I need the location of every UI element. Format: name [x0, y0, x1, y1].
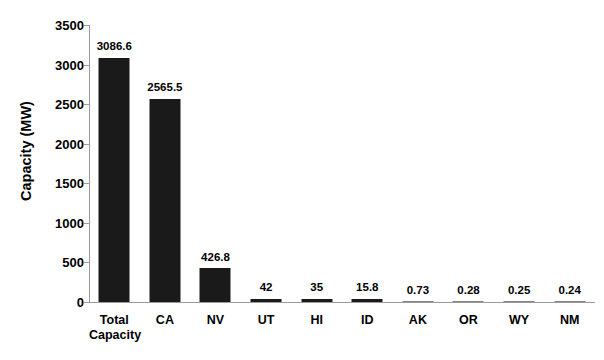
x-axis-category-label: UT: [241, 313, 292, 328]
bar: [453, 301, 484, 302]
x-axis-category-label: WY: [494, 313, 545, 328]
bar-group: 0.73: [393, 25, 444, 302]
x-axis-category-label: NM: [544, 313, 595, 328]
x-axis-category-label: OR: [443, 313, 494, 328]
bar-group: 15.8: [342, 25, 393, 302]
bar-group: 2565.5: [140, 25, 191, 302]
bar-value-label: 15.8: [356, 282, 378, 294]
bar: [200, 268, 231, 302]
y-axis-tick-label: 3500: [40, 19, 84, 32]
y-axis-tick-label: 0: [40, 296, 84, 309]
bar-value-label: 42: [260, 282, 273, 294]
x-axis-category-label: AK: [393, 313, 444, 328]
bar-group: 35: [291, 25, 342, 302]
bar-group: 0.28: [443, 25, 494, 302]
bar: [554, 301, 585, 302]
bar-chart: Capacity (MW) 05001000150020002500300035…: [0, 0, 604, 360]
bar-value-label: 35: [310, 282, 323, 294]
x-axis-line: [89, 302, 595, 303]
y-axis-tick-label: 500: [40, 256, 84, 269]
bar-value-label: 0.24: [558, 285, 580, 297]
bar-value-label: 0.73: [407, 285, 429, 297]
y-axis-tick-label: 1500: [40, 177, 84, 190]
y-axis-tick-label: 1000: [40, 216, 84, 229]
bar-value-label: 3086.6: [97, 41, 132, 53]
bar-value-label: 0.28: [457, 285, 479, 297]
bar: [352, 299, 383, 302]
x-axis-category-label: Total Capacity: [89, 313, 140, 343]
bar-value-label: 426.8: [201, 252, 230, 264]
x-axis-category-labels: Total CapacityCANVUTHIIDAKORWYNM: [89, 307, 595, 357]
y-axis-tick-label: 3000: [40, 58, 84, 71]
y-axis-tick-labels: 0500100015002000250030003500: [40, 0, 84, 320]
y-axis-tick-label: 2000: [40, 137, 84, 150]
bar: [301, 299, 332, 302]
bar-value-label: 2565.5: [147, 82, 182, 94]
bar-group: 0.25: [494, 25, 545, 302]
bar-value-label: 0.25: [508, 285, 530, 297]
x-axis-category-label: CA: [140, 313, 191, 328]
y-axis-title-label: Capacity (MW): [18, 101, 34, 201]
bar-group: 3086.6: [89, 25, 140, 302]
x-axis-category-label: NV: [190, 313, 241, 328]
x-axis-category-label: HI: [291, 313, 342, 328]
y-axis-title: Capacity (MW): [8, 0, 44, 302]
y-axis-tick-label: 2500: [40, 98, 84, 111]
bar-group: 426.8: [190, 25, 241, 302]
bar: [402, 301, 433, 302]
bar: [251, 299, 282, 302]
plot-area: 3086.62565.5426.8423515.80.730.280.250.2…: [89, 25, 595, 302]
bar-group: 0.24: [544, 25, 595, 302]
bar-group: 42: [241, 25, 292, 302]
x-axis-category-label: ID: [342, 313, 393, 328]
bar: [149, 99, 180, 302]
bar: [99, 58, 130, 302]
bar: [504, 301, 535, 302]
